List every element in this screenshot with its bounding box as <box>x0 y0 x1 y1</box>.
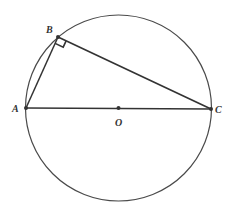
point-b <box>56 35 60 39</box>
label-o: O <box>115 117 122 128</box>
label-c: C <box>215 104 222 115</box>
point-o <box>117 106 121 110</box>
point-c <box>209 107 213 111</box>
segment-bc <box>58 37 211 109</box>
segment-ab <box>26 37 58 108</box>
point-a <box>24 106 28 110</box>
right-angle-marker <box>55 41 66 47</box>
label-a: A <box>11 103 19 114</box>
geometry-diagram: A B C O <box>0 0 234 216</box>
label-b: B <box>45 24 53 35</box>
